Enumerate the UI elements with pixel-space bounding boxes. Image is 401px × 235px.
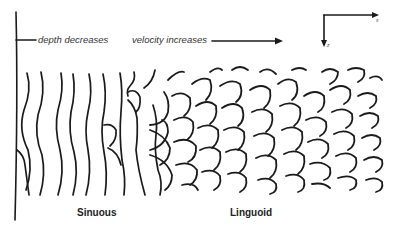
linguoid-label: Linguoid <box>230 207 272 218</box>
sinuous-crests <box>17 70 161 195</box>
sinuous-label: Sinuous <box>77 207 116 218</box>
velocity-arrowhead <box>275 38 283 45</box>
x-axis-label: x <box>376 17 379 23</box>
left-boundary-line <box>15 12 17 220</box>
linguoid-crests <box>150 67 382 194</box>
velocity-increases-label: velocity increases <box>132 34 207 45</box>
z-axis-label: z <box>327 42 330 48</box>
depth-decreases-label: depth decreases <box>38 34 108 45</box>
